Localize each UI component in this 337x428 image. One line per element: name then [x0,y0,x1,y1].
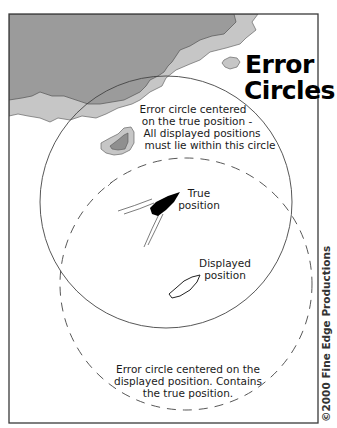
svg-text:Displayed: Displayed [199,257,251,269]
svg-text:on the true position -: on the true position - [142,115,253,127]
svg-text:the true position.: the true position. [143,387,233,399]
svg-text:must lie within this circle: must lie within this circle [144,139,275,151]
svg-text:displayed position. Contains: displayed position. Contains [114,375,262,387]
svg-text:All displayed positions: All displayed positions [143,127,260,139]
displayed-position-label: Displayed position [199,257,251,281]
error-circles-diagram: Error Circles Error circle centered on t… [0,0,337,428]
copyright-notice: ©2000 Fine Edge Productions [320,246,332,422]
svg-text:Error circle centered: Error circle centered [140,103,247,115]
svg-text:position: position [178,199,220,211]
true-circle-annotation: Error circle centered on the true positi… [140,103,276,151]
small-island-shape [222,57,240,69]
displayed-circle-annotation: Error circle centered on the displayed p… [114,363,262,399]
true-position-boat-icon [150,192,180,216]
displayed-position-boat-icon [169,275,200,298]
land-mass-shape [9,14,236,104]
svg-text:position: position [204,269,246,281]
svg-text:Error circle centered on the: Error circle centered on the [116,363,260,375]
true-position-label: True position [178,187,220,211]
svg-text:True: True [187,187,210,199]
diagram-title-line-2: Circles [244,76,335,105]
diagram-title-line-1: Error [245,50,315,79]
